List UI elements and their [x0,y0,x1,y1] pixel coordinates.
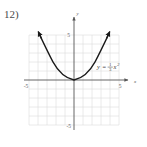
equation-fraction-denominator: 3 [109,67,111,72]
equation-variable: x [113,63,117,70]
equation-exponent: 2 [117,62,120,67]
equation-fraction-numerator: 1 [109,62,111,67]
x-tick-label-neg5: -5 [24,83,29,89]
graph-svg: x y -5 5 5 -5 y = 1 3 x 2 [0,0,147,147]
equation-lhs: y [96,63,100,70]
y-axis-label: y [76,11,80,16]
y-tick-label-neg5: -5 [66,123,71,129]
worksheet-page: 12) [0,0,147,147]
x-axis-label: x [133,79,137,84]
y-tick-label-pos5: 5 [67,32,70,38]
equation-equals: = [102,63,106,70]
coordinate-graph: x y -5 5 5 -5 y = 1 3 x 2 [0,0,147,147]
x-tick-label-pos5: 5 [119,83,122,89]
